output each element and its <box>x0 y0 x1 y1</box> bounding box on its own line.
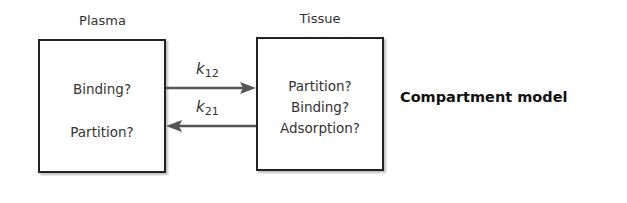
rate-symbol: k <box>196 98 205 116</box>
rate-subscript: 12 <box>205 67 219 80</box>
arrow-tissue-to-plasma <box>166 120 256 132</box>
diagram-title: Compartment model <box>400 89 567 105</box>
rate-subscript: 21 <box>205 105 219 118</box>
rate-symbol: k <box>196 60 205 78</box>
rate-constant-k21: k21 <box>196 98 219 118</box>
rate-constant-k12: k12 <box>196 60 219 80</box>
arrow-plasma-to-tissue <box>166 82 256 94</box>
